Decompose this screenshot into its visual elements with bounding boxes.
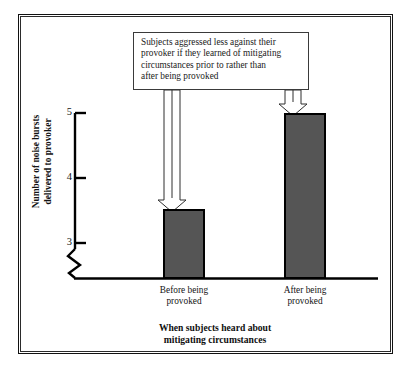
callout-arrow-left xyxy=(158,90,186,212)
bar-before-being-provoked xyxy=(163,209,205,279)
x-category-label-before: Before being provoked xyxy=(129,285,239,307)
x-axis-title: When subjects heard about mitigating cir… xyxy=(95,322,335,345)
x-category-label-after: After being provoked xyxy=(250,285,360,307)
axis-break-zigzag xyxy=(68,249,80,278)
annotation-text: Subjects aggressed less against their pr… xyxy=(141,37,302,83)
bar-after-being-provoked xyxy=(284,113,326,279)
annotation-callout: Subjects aggressed less against their pr… xyxy=(133,32,309,90)
figure-container: Number of noise bursts delivered to prov… xyxy=(0,0,409,371)
